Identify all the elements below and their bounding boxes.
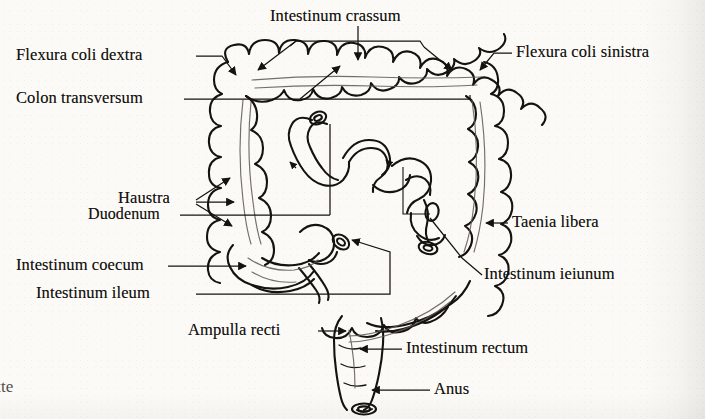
scanned-page: Intestinum crassum Flexura coli dextra F… [0,0,705,419]
leader-colon-transversum-arrow [300,66,340,99]
label-intestinum-rectum: Intestinum rectum [406,340,528,357]
label-intestinum-ileum: Intestinum ileum [36,285,150,302]
label-flexura-coli-sinistra: Flexura coli sinistra [516,44,649,61]
label-anus: Anus [434,381,469,398]
label-flexura-coli-dextra: Flexura coli dextra [16,47,143,64]
leader-jejunum-arrow-2 [290,162,296,168]
label-duodenum: Duodenum [88,206,160,222]
label-intestinum-ieiunum: Intestinum ieiunum [484,266,615,283]
label-intestinum-crassum: Intestinum crassum [270,8,401,25]
leader-intestinum-ieiunum [462,258,482,275]
large-intestine-outline [207,34,546,415]
page-edge-fragment: tte [0,377,14,397]
label-intestinum-coecum: Intestinum coecum [16,257,144,274]
leader-haustra-a [196,178,230,200]
label-taenia-libera: Taenia libera [512,214,599,231]
label-ampulla-recti: Ampulla recti [188,322,280,339]
label-colon-transversum: Colon transversum [16,90,143,107]
